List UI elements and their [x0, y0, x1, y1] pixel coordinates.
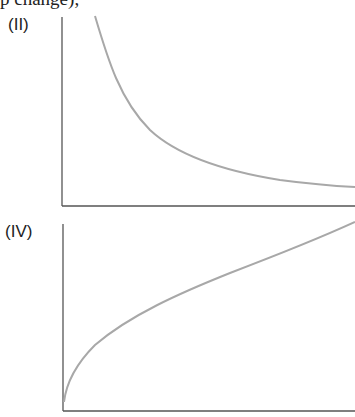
chart-ii — [62, 16, 355, 206]
increasing-curve — [64, 222, 355, 402]
decreasing-curve — [95, 16, 355, 187]
charts-canvas — [0, 0, 355, 417]
chart-iv — [63, 222, 355, 411]
